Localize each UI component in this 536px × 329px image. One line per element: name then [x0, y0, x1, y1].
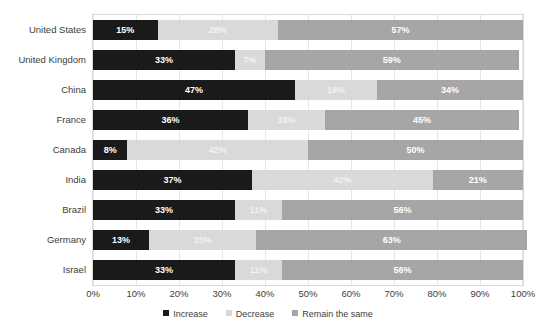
- bar-row: Brazil33%11%56%: [93, 195, 523, 225]
- legend-item[interactable]: Remain the same: [292, 308, 373, 319]
- bar-value-label: 8%: [93, 140, 127, 160]
- x-tick-label: 100%: [511, 288, 535, 299]
- x-tick-label: 70%: [384, 288, 403, 299]
- x-axis-ticks: 0%10%20%30%40%50%60%70%80%90%100%: [93, 288, 523, 302]
- legend-label: Decrease: [236, 309, 275, 319]
- category-label: United States: [29, 15, 93, 45]
- legend-swatch-icon: [226, 310, 232, 316]
- bar-segment-remain-the-same: 45%: [325, 110, 519, 130]
- bar-value-label: 21%: [433, 170, 523, 190]
- category-label: Brazil: [62, 195, 93, 225]
- bar-segment-decrease: 28%: [158, 20, 278, 40]
- bar-value-label: 33%: [93, 260, 235, 280]
- category-label: Germany: [47, 225, 93, 255]
- bar-value-label: 11%: [235, 200, 282, 220]
- category-label: India: [65, 165, 93, 195]
- bar-value-label: 36%: [93, 110, 248, 130]
- bar-value-label: 13%: [93, 230, 149, 250]
- bar-segment-remain-the-same: 34%: [377, 80, 523, 100]
- bar-segment-remain-the-same: 59%: [265, 50, 519, 70]
- x-tick-label: 20%: [169, 288, 188, 299]
- bar-segment-remain-the-same: 56%: [282, 200, 523, 220]
- bar-segment-increase: 15%: [93, 20, 158, 40]
- x-tick-label: 30%: [212, 288, 231, 299]
- bar-segment-increase: 47%: [93, 80, 295, 100]
- x-tick-label: 0%: [86, 288, 100, 299]
- bar-segment-decrease: 25%: [149, 230, 257, 250]
- bar-value-label: 7%: [235, 50, 265, 70]
- category-label: China: [61, 75, 93, 105]
- bar-segment-decrease: 19%: [295, 80, 377, 100]
- bar-value-label: 33%: [93, 200, 235, 220]
- stacked-bar-chart: United States15%28%57%United Kingdom33%7…: [0, 0, 536, 329]
- bar-segment-increase: 37%: [93, 170, 252, 190]
- bar-value-label: 25%: [149, 230, 257, 250]
- bar-row: United Kingdom33%7%59%: [93, 45, 523, 75]
- bar-value-label: 57%: [278, 20, 523, 40]
- x-tick-label: 40%: [255, 288, 274, 299]
- bar-value-label: 47%: [93, 80, 295, 100]
- x-tick-label: 60%: [341, 288, 360, 299]
- legend-label: Increase: [173, 309, 208, 319]
- bar-segment-remain-the-same: 56%: [282, 260, 523, 280]
- bar-segment-remain-the-same: 50%: [308, 140, 523, 160]
- bar-segment-remain-the-same: 63%: [256, 230, 527, 250]
- bar-value-label: 50%: [308, 140, 523, 160]
- bar-value-label: 19%: [295, 80, 377, 100]
- bar-value-label: 11%: [235, 260, 282, 280]
- legend-item[interactable]: Increase: [163, 308, 208, 319]
- bar-segment-increase: 13%: [93, 230, 149, 250]
- legend-label: Remain the same: [302, 309, 373, 319]
- legend-swatch-icon: [163, 310, 169, 316]
- bar-segment-increase: 36%: [93, 110, 248, 130]
- bar-segment-decrease: 42%: [252, 170, 433, 190]
- x-tick-label: 50%: [298, 288, 317, 299]
- bar-segment-remain-the-same: 21%: [433, 170, 523, 190]
- bar-row: India37%42%21%: [93, 165, 523, 195]
- x-tick-label: 10%: [126, 288, 145, 299]
- bar-segment-increase: 33%: [93, 200, 235, 220]
- bar-segment-remain-the-same: 57%: [278, 20, 523, 40]
- bar-segment-decrease: 18%: [248, 110, 325, 130]
- legend-item[interactable]: Decrease: [226, 308, 275, 319]
- bar-row: Germany13%25%63%: [93, 225, 523, 255]
- bar-value-label: 42%: [127, 140, 308, 160]
- bar-rows: United States15%28%57%United Kingdom33%7…: [93, 15, 523, 285]
- x-tick-label: 80%: [427, 288, 446, 299]
- legend-swatch-icon: [292, 310, 298, 316]
- bar-segment-decrease: 11%: [235, 200, 282, 220]
- category-label: France: [56, 105, 93, 135]
- bar-value-label: 18%: [248, 110, 325, 130]
- category-label: Israel: [63, 255, 93, 285]
- bar-value-label: 56%: [282, 260, 523, 280]
- bar-segment-increase: 33%: [93, 260, 235, 280]
- plot-area: United States15%28%57%United Kingdom33%7…: [93, 15, 523, 285]
- bar-value-label: 15%: [93, 20, 158, 40]
- bar-value-label: 34%: [377, 80, 523, 100]
- bar-row: China47%19%34%: [93, 75, 523, 105]
- bar-value-label: 45%: [325, 110, 519, 130]
- bar-value-label: 56%: [282, 200, 523, 220]
- bar-segment-increase: 33%: [93, 50, 235, 70]
- x-tick-label: 90%: [470, 288, 489, 299]
- category-label: United Kingdom: [18, 45, 93, 75]
- bar-segment-decrease: 11%: [235, 260, 282, 280]
- bar-segment-decrease: 7%: [235, 50, 265, 70]
- bar-value-label: 28%: [158, 20, 278, 40]
- bar-row: United States15%28%57%: [93, 15, 523, 45]
- bar-value-label: 63%: [256, 230, 527, 250]
- chart-legend: IncreaseDecreaseRemain the same: [0, 308, 536, 319]
- bar-row: France36%18%45%: [93, 105, 523, 135]
- bar-row: Canada8%42%50%: [93, 135, 523, 165]
- bar-value-label: 59%: [265, 50, 519, 70]
- bar-segment-increase: 8%: [93, 140, 127, 160]
- bar-row: Israel33%11%56%: [93, 255, 523, 285]
- bar-value-label: 33%: [93, 50, 235, 70]
- bar-value-label: 42%: [252, 170, 433, 190]
- category-label: Canada: [53, 135, 93, 165]
- bar-value-label: 37%: [93, 170, 252, 190]
- bar-segment-decrease: 42%: [127, 140, 308, 160]
